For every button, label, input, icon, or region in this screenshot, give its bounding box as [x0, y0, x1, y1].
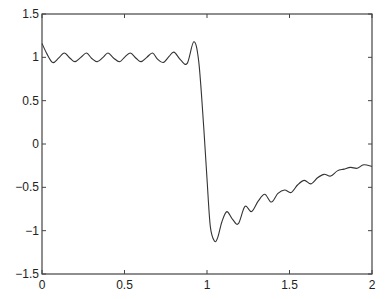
y-tick-label: 0	[32, 137, 39, 151]
x-tick-label: 0.5	[116, 278, 133, 292]
y-tick-label: −0.5	[15, 180, 39, 194]
plot-background	[42, 14, 372, 274]
x-tick-label: 1	[204, 278, 211, 292]
y-tick-label: −1	[25, 224, 39, 238]
line-chart: 00.511.52−1.5−1−0.500.511.5	[0, 0, 387, 299]
x-tick-label: 0	[39, 278, 46, 292]
x-tick-label: 2	[369, 278, 376, 292]
y-tick-label: −1.5	[15, 267, 39, 281]
x-tick-label: 1.5	[281, 278, 298, 292]
y-tick-label: 1.5	[22, 7, 39, 21]
y-tick-label: 0.5	[22, 94, 39, 108]
y-tick-label: 1	[32, 50, 39, 64]
